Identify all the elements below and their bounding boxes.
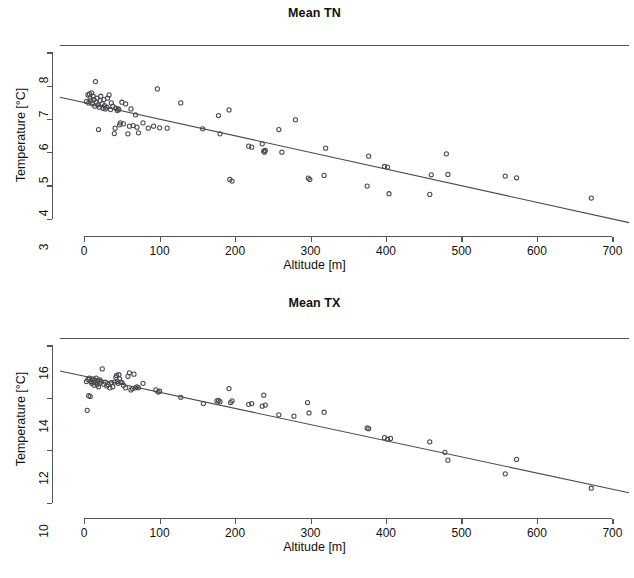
scatter-point [262, 393, 266, 397]
regression-line [60, 371, 629, 493]
scatter-point [216, 113, 220, 117]
chart-title-mean-tn: Mean TN [0, 6, 629, 20]
scatter-point [293, 118, 297, 122]
scatter-point [165, 126, 169, 130]
x-axis-tick-label: 200 [205, 244, 265, 258]
scatter-point [428, 192, 432, 196]
scatter-point [589, 486, 593, 490]
scatter-point [322, 410, 326, 414]
scatter-layer-mean-tx [60, 338, 629, 510]
x-axis-tick [84, 237, 85, 242]
x-axis-tick-label: 0 [54, 244, 114, 258]
x-axis-tick-label: 600 [507, 526, 567, 540]
x-axis-tick-label: 700 [582, 526, 634, 540]
scatter-point [387, 192, 391, 196]
scatter-point [135, 125, 139, 129]
scatter-point [113, 126, 117, 130]
y-axis-title: Temperature [°C] [14, 60, 28, 210]
scatter-point [429, 173, 433, 177]
x-axis-tick-label: 400 [356, 244, 416, 258]
scatter-point [292, 414, 296, 418]
scatter-point [96, 127, 100, 131]
scatter-point [132, 372, 136, 376]
y-axis-tick-label: 8 [37, 51, 51, 109]
scatter-point [100, 367, 104, 371]
y-axis-tick-label: 16 [37, 344, 51, 402]
x-axis-tick-label: 400 [356, 526, 416, 540]
x-axis-tick-label: 600 [507, 244, 567, 258]
scatter-point [446, 458, 450, 462]
x-axis-tick [612, 519, 613, 524]
scatter-point [146, 126, 150, 130]
scatter-point [136, 131, 140, 135]
scatter-point [280, 150, 284, 154]
x-axis-tick [537, 519, 538, 524]
scatter-point [503, 174, 507, 178]
scatter-point [322, 173, 326, 177]
x-axis-title: Altitude [m] [0, 258, 629, 272]
x-axis-tick [461, 237, 462, 242]
scatter-point [367, 154, 371, 158]
scatter-point [112, 131, 116, 135]
scatter-point [305, 400, 309, 404]
scatter-point [124, 102, 128, 106]
scatter-point [129, 107, 133, 111]
scatter-point [365, 184, 369, 188]
x-axis-tick-label: 100 [130, 244, 190, 258]
x-axis-tick [311, 519, 312, 524]
x-axis-tick [235, 519, 236, 524]
y-axis-line [52, 52, 53, 218]
scatter-point [514, 176, 518, 180]
scatter-point [307, 411, 311, 415]
x-axis-tick-label: 200 [205, 526, 265, 540]
scatter-point [179, 101, 183, 105]
x-axis-tick [386, 237, 387, 242]
x-axis-tick [160, 519, 161, 524]
scatter-point [141, 381, 145, 385]
x-axis-tick-label: 100 [130, 526, 190, 540]
chart-title-mean-tx: Mean TX [0, 296, 629, 310]
x-axis-tick [84, 519, 85, 524]
scatter-point [514, 457, 518, 461]
scatter-point [155, 87, 159, 91]
x-axis-tick [386, 519, 387, 524]
regression-line [60, 97, 629, 222]
scatter-point [85, 408, 89, 412]
chart-panel-mean-tx: Mean TX 101214160100200300400500600700 A… [0, 290, 629, 578]
x-axis-tick-label: 300 [281, 526, 341, 540]
scatter-point [277, 413, 281, 417]
y-axis-tick-label: 14 [37, 397, 51, 455]
plot-area-mean-tx [60, 338, 629, 510]
x-axis-tick [537, 237, 538, 242]
scatter-point [151, 124, 155, 128]
y-axis-tick-label: 12 [37, 449, 51, 507]
x-axis-tick-label: 300 [281, 244, 341, 258]
scatter-point [126, 132, 130, 136]
x-axis-tick-label: 500 [431, 526, 491, 540]
chart-panel-mean-tn: Mean TN 3456780100200300400500600700 Alt… [0, 0, 629, 290]
scatter-point [158, 126, 162, 130]
scatter-point [324, 146, 328, 150]
x-axis-tick [160, 237, 161, 242]
x-axis-title: Altitude [m] [0, 540, 629, 554]
x-axis-tick-label: 0 [54, 526, 114, 540]
scatter-point [277, 127, 281, 131]
x-axis-line [84, 518, 612, 519]
scatter-point [227, 108, 231, 112]
scatter-point [589, 196, 593, 200]
x-axis-tick [235, 237, 236, 242]
y-axis-line [52, 345, 53, 502]
x-axis-tick [311, 237, 312, 242]
scatter-point [93, 80, 97, 84]
y-axis-title: Temperature [°C] [14, 344, 28, 494]
scatter-point [503, 472, 507, 476]
scatter-layer-mean-tn [60, 45, 629, 228]
x-axis-tick-label: 500 [431, 244, 491, 258]
scatter-point [428, 440, 432, 444]
scatter-point [141, 121, 145, 125]
x-axis-tick-label: 700 [582, 244, 634, 258]
plot-area-mean-tn [60, 45, 629, 228]
scatter-point [446, 172, 450, 176]
x-axis-tick [461, 519, 462, 524]
scatter-point [227, 387, 231, 391]
